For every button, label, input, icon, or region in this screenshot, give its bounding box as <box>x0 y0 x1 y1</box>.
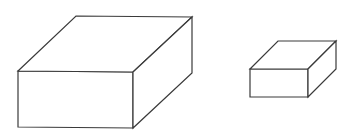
small-box-front-face <box>250 69 308 97</box>
large-box <box>18 16 192 128</box>
large-box-front-face <box>18 71 133 128</box>
boxes-diagram <box>0 0 353 135</box>
diagram-canvas <box>0 0 353 135</box>
small-box <box>250 41 336 97</box>
